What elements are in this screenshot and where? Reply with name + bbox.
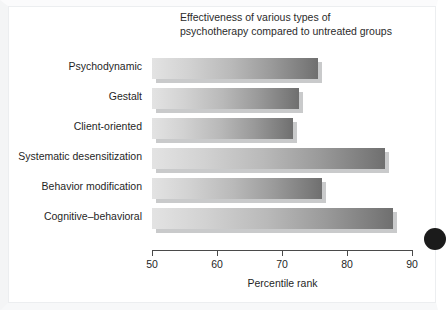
bar (152, 178, 322, 199)
bar (152, 88, 299, 109)
bar (152, 118, 293, 139)
category-label: Systematic desensitization (18, 150, 142, 162)
bar (152, 208, 393, 229)
bar-row: Gestalt (152, 87, 412, 117)
x-axis-tick-label: 60 (211, 258, 223, 270)
x-axis-tick (347, 250, 348, 256)
bar-row: Behavior modification (152, 177, 412, 207)
x-axis-title: Percentile rank (152, 277, 413, 289)
plot-area: PsychodynamicGestaltClient-orientedSyste… (152, 55, 412, 250)
bar-row: Systematic desensitization (152, 147, 412, 177)
category-label: Psychodynamic (68, 60, 142, 72)
category-label: Cognitive–behavioral (44, 210, 142, 222)
x-axis-tick (152, 250, 153, 256)
category-label: Client-oriented (74, 120, 142, 132)
bar (152, 148, 385, 169)
x-axis-tick (282, 250, 283, 256)
x-axis-tick-label: 90 (406, 258, 418, 270)
x-axis-tick-label: 70 (276, 258, 288, 270)
bar-row: Psychodynamic (152, 57, 412, 87)
bullet-circle-icon (424, 228, 446, 250)
x-axis-tick (217, 250, 218, 256)
x-axis-tick-label: 50 (146, 258, 158, 270)
bar-row: Client-oriented (152, 117, 412, 147)
x-axis-tick-label: 80 (341, 258, 353, 270)
x-axis-tick (412, 250, 413, 256)
category-label: Behavior modification (42, 180, 142, 192)
category-label: Gestalt (109, 90, 142, 102)
chart-title: Effectiveness of various types of psycho… (180, 11, 430, 38)
bar (152, 58, 318, 79)
bar-row: Cognitive–behavioral (152, 207, 412, 237)
